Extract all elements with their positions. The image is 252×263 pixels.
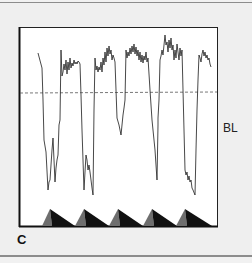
trace-plot [0, 0, 252, 263]
baseline-label: BL [223, 121, 238, 135]
panel-label: C [17, 232, 26, 247]
plot-frame [20, 28, 218, 227]
